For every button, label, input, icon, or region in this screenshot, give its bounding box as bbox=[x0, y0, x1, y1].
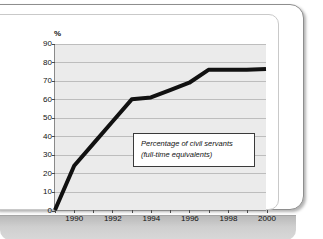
x-axis-tick-label: 1998 bbox=[220, 215, 238, 223]
x-axis-tick-label: 1992 bbox=[104, 215, 122, 223]
x-axis-tick-label: 1990 bbox=[65, 215, 83, 223]
x-axis-tick-mark bbox=[74, 210, 75, 213]
x-axis-tick-mark bbox=[132, 210, 133, 213]
x-axis-tick-mark bbox=[55, 210, 56, 213]
x-axis-tick-label: 1996 bbox=[181, 215, 199, 223]
y-axis-tick-label: 40 bbox=[43, 133, 52, 141]
y-axis-tick-label: 70 bbox=[43, 77, 52, 85]
x-axis-tick-mark bbox=[170, 210, 171, 213]
y-axis-tick-label: 50 bbox=[43, 114, 52, 122]
line-chart: % 0102030405060708090 199019921994199619… bbox=[26, 30, 274, 215]
y-axis-unit-label: % bbox=[54, 30, 61, 38]
annotation-line-1: Percentage of civil servants bbox=[141, 139, 248, 150]
x-axis-tick-label: 1994 bbox=[142, 215, 160, 223]
x-axis-tick-mark bbox=[267, 210, 268, 213]
x-axis-tick-mark bbox=[112, 210, 113, 213]
plot-area: 0102030405060708090 19901992199419961998… bbox=[54, 44, 266, 211]
x-axis-tick-mark bbox=[189, 210, 190, 213]
x-axis-tick-mark bbox=[247, 210, 248, 213]
y-axis-tick-label: 30 bbox=[43, 151, 52, 159]
x-axis-tick-mark bbox=[209, 210, 210, 213]
x-axis-tick-mark bbox=[151, 210, 152, 213]
y-axis-tick-label: 20 bbox=[43, 170, 52, 178]
y-axis-tick-label: 90 bbox=[43, 40, 52, 48]
chart-annotation-box: Percentage of civil servants (full-time … bbox=[133, 133, 255, 167]
y-axis-tick-label: 60 bbox=[43, 96, 52, 104]
y-axis-tick-label: 80 bbox=[43, 59, 52, 67]
y-axis-tick-label: 10 bbox=[43, 188, 52, 196]
x-axis-tick-label: 2000 bbox=[258, 215, 276, 223]
series-line-group bbox=[55, 44, 266, 210]
x-axis-tick-mark bbox=[228, 210, 229, 213]
x-axis-tick-mark bbox=[93, 210, 94, 213]
annotation-line-2: (full-time equivalents) bbox=[141, 150, 248, 161]
